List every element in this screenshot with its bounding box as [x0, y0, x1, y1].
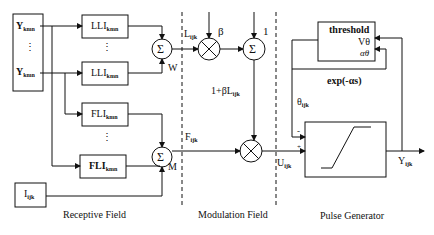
fli-bottom-label: FLIkmn [89, 161, 117, 172]
output-label: Yijk [398, 156, 412, 167]
threshold-title: threshold [329, 25, 369, 35]
sum-m-label: M [168, 162, 177, 172]
theta-label: θijk [297, 97, 309, 108]
linking-signal-label: Lijk [184, 29, 197, 40]
sum-m-symbol: Σ [157, 151, 164, 163]
plus-sign: + [297, 144, 301, 151]
beta-label: β [218, 26, 224, 37]
y-input-vdots: ⋮ [25, 42, 35, 52]
threshold-alpha: αθ [360, 49, 369, 58]
modulation-term-label: 1+βLijk [211, 86, 240, 97]
y-input-bottom: Ykmn [16, 67, 35, 78]
stimulus-label: Iijk [24, 189, 34, 200]
pulse-generator-box [305, 122, 386, 177]
lli-top-label: LLIkmn [91, 21, 118, 32]
sum-w-symbol: Σ [157, 43, 164, 55]
section-receptive-field: Receptive Field [63, 210, 126, 220]
one-label: 1 [263, 26, 269, 37]
minus-sign: - [297, 127, 300, 136]
feeding-signal-label: Fijk [185, 132, 198, 143]
threshold-v: Vθ [358, 37, 370, 47]
y-input-top: Ykmn [16, 21, 35, 32]
lli-vdots: ⋮ [102, 42, 112, 52]
sum-w-label: W [168, 63, 177, 73]
fli-vdots: ⋮ [102, 132, 112, 142]
internal-activity-label: Uijk [277, 158, 291, 169]
sum-one-symbol: Σ [249, 43, 256, 55]
decay-label: exp(-αs) [327, 76, 361, 86]
lli-bottom-label: LLIkmn [91, 68, 118, 79]
fli-top-label: FLIkmn [91, 109, 118, 120]
section-modulation-field: Modulation Field [198, 210, 268, 220]
section-pulse-generator: Pulse Generator [320, 211, 384, 221]
